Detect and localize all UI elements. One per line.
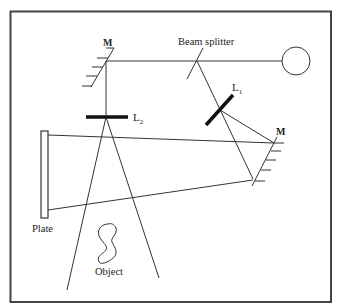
label-mirror-right: M [276,126,286,137]
photographic-plate [41,131,48,218]
laser-source-icon [282,47,310,75]
label-beam-splitter: Beam splitter [178,36,235,47]
beam-cone-right [106,117,159,278]
beam-splitter-icon [187,48,203,79]
label-object: Object [95,266,123,277]
mirror-top-left-icon [82,48,114,87]
label-plate: Plate [32,223,53,234]
mirror-right-icon [252,137,284,186]
object-shape [98,224,116,264]
lens-l1-icon [206,95,233,125]
beam-splitter-to-mirror [197,61,253,179]
beam-mirror-to-plate-bottom [48,180,253,210]
holography-diagram: M Beam splitter L1 L2 M Plate Object [0,0,342,308]
label-lens-1: L1 [232,81,243,96]
beam-cone-left [67,117,106,290]
label-lens-2: L2 [133,111,144,126]
label-mirror-top-left: M [103,37,113,48]
beam-mirror-to-plate-top [48,135,274,143]
